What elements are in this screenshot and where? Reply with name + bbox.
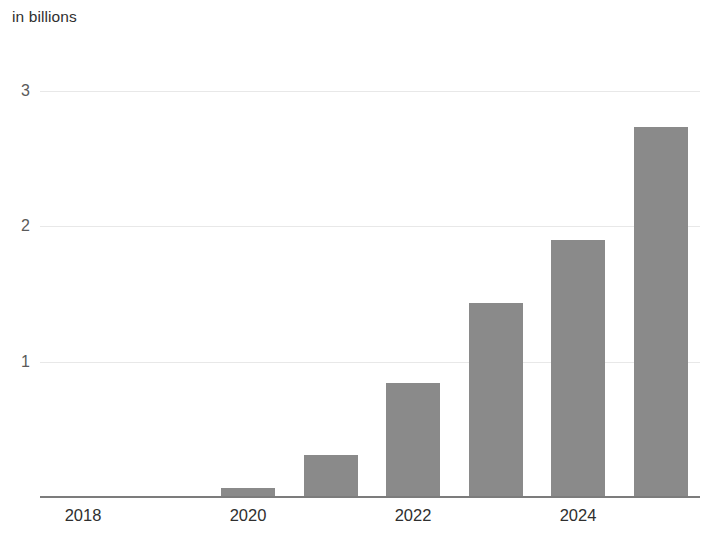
- y-axis-tick-label: 2: [0, 218, 30, 234]
- x-axis-tick-label-2018: 2018: [33, 505, 133, 525]
- bar-chart: in billions 321 2018202020222024: [0, 0, 711, 550]
- x-axis-tick-label-2020: 2020: [198, 505, 298, 525]
- x-axis-tick-label-2024: 2024: [528, 505, 628, 525]
- x-axis-tick-label-2022: 2022: [363, 505, 463, 525]
- y-axis-tick-label: 3: [0, 83, 30, 99]
- bar-2024: [551, 240, 605, 497]
- bar-2023: [469, 303, 523, 497]
- bar-2021: [304, 455, 358, 497]
- bar-2022: [386, 383, 440, 497]
- y-axis-unit-label: in billions: [12, 8, 77, 26]
- bars-layer: [40, 80, 700, 497]
- y-axis-tick-label: 1: [0, 354, 30, 370]
- bar-2025: [634, 127, 688, 497]
- x-axis-line: [40, 496, 700, 498]
